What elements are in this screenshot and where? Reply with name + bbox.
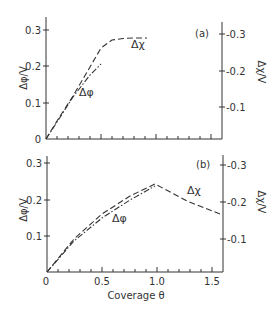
- delta-phi-label-b: Δφ: [112, 212, 127, 225]
- y-tick-0.1-a: 0.1: [25, 98, 41, 109]
- delta-phi-label-a: Δφ: [79, 86, 94, 99]
- panel-label-b: (b): [196, 159, 210, 170]
- right-axis-title-a: Δχ/V: [256, 61, 267, 84]
- delta-chi-curve-a: [46, 38, 147, 139]
- x-tick-0: 0: [43, 276, 49, 287]
- right-tick-0.3-b: -0.3: [227, 160, 247, 171]
- y-tick-0.1-b: 0.1: [26, 231, 42, 242]
- panel-a: 0 0.1 0.2 0.3 -0.1 -0.2 -0.3 Δφ/V Δχ/V (…: [18, 17, 267, 145]
- panel-label-a: (a): [195, 28, 209, 39]
- delta-phi-curve-b: [47, 186, 155, 272]
- x-axis-title: Coverage θ: [107, 290, 164, 301]
- right-tick-0.2-b: -0.2: [227, 197, 247, 208]
- delta-chi-label-b: Δχ: [187, 184, 202, 197]
- left-axis-title-a: Δφ/V: [18, 66, 29, 90]
- delta-phi-curve-a: [46, 64, 101, 139]
- figure: 0 0.1 0.2 0.3 -0.1 -0.2 -0.3 Δφ/V Δχ/V (…: [0, 0, 271, 314]
- right-tick-0.1-a: -0.1: [226, 102, 246, 113]
- y-tick-0.3-a: 0.3: [25, 25, 41, 36]
- panel-b: 0 0.5 1.0 1.5 Coverage θ 0.1 0.2 0.3 -0.…: [18, 155, 267, 301]
- x-tick-1.0: 1.0: [149, 276, 165, 287]
- delta-chi-curve-b: [47, 184, 220, 272]
- x-ticks-b: [58, 267, 212, 272]
- y-tick-0-a: 0: [35, 134, 41, 145]
- left-axis-title-b: Δφ/V: [18, 198, 29, 222]
- delta-chi-label-a: Δχ: [131, 38, 146, 51]
- right-tick-0.2-a: -0.2: [226, 66, 246, 77]
- right-tick-0.1-b: -0.1: [227, 234, 247, 245]
- x-tick-0.5: 0.5: [94, 276, 110, 287]
- x-tick-1.5: 1.5: [204, 276, 220, 287]
- x-ticks-a: [57, 134, 211, 139]
- right-axis-title-b: Δχ/V: [256, 191, 267, 214]
- y-tick-0.3-b: 0.3: [26, 158, 42, 169]
- right-tick-0.3-a: -0.3: [226, 29, 246, 40]
